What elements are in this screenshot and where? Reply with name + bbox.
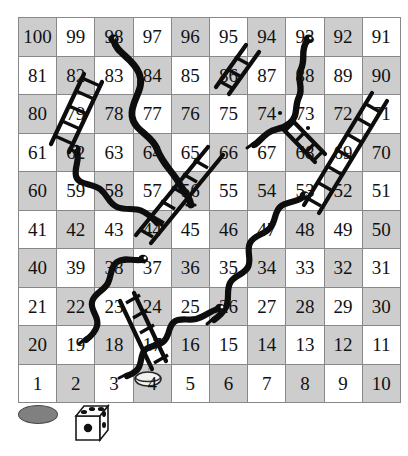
board-cell-100[interactable]: 100 xyxy=(19,18,57,57)
board-cell-97[interactable]: 97 xyxy=(133,18,171,57)
board-cell-52[interactable]: 52 xyxy=(324,172,362,211)
board-cell-87[interactable]: 87 xyxy=(248,56,286,95)
board-cell-39[interactable]: 39 xyxy=(57,249,95,288)
die[interactable] xyxy=(64,400,110,446)
cell-number: 21 xyxy=(28,296,47,317)
board-cell-61[interactable]: 61 xyxy=(19,133,57,172)
board-cell-54[interactable]: 54 xyxy=(248,172,286,211)
board-cell-51[interactable]: 51 xyxy=(362,172,400,211)
board-grid[interactable]: 1009998979695949392918182838485868788899… xyxy=(18,17,401,403)
board-cell-13[interactable]: 13 xyxy=(286,326,324,365)
board-cell-15[interactable]: 15 xyxy=(209,326,247,365)
board-cell-75[interactable]: 75 xyxy=(209,95,247,134)
board-cell-96[interactable]: 96 xyxy=(171,18,209,57)
game-board[interactable]: 1009998979695949392918182838485868788899… xyxy=(18,17,390,392)
board-cell-25[interactable]: 25 xyxy=(171,287,209,326)
board-cell-89[interactable]: 89 xyxy=(324,56,362,95)
board-cell-29[interactable]: 29 xyxy=(324,287,362,326)
board-cell-77[interactable]: 77 xyxy=(133,95,171,134)
board-cell-88[interactable]: 88 xyxy=(286,56,324,95)
board-cell-14[interactable]: 14 xyxy=(248,326,286,365)
board-cell-67[interactable]: 67 xyxy=(248,133,286,172)
board-cell-34[interactable]: 34 xyxy=(248,249,286,288)
board-cell-47[interactable]: 47 xyxy=(248,210,286,249)
board-cell-70[interactable]: 70 xyxy=(362,133,400,172)
board-cell-12[interactable]: 12 xyxy=(324,326,362,365)
board-cell-65[interactable]: 65 xyxy=(171,133,209,172)
board-cell-80[interactable]: 80 xyxy=(19,95,57,134)
board-cell-16[interactable]: 16 xyxy=(171,326,209,365)
board-cell-21[interactable]: 21 xyxy=(19,287,57,326)
board-cell-24[interactable]: 24 xyxy=(133,287,171,326)
board-cell-66[interactable]: 66 xyxy=(209,133,247,172)
board-cell-56[interactable]: 56 xyxy=(171,172,209,211)
board-cell-83[interactable]: 83 xyxy=(95,56,133,95)
board-cell-38[interactable]: 38 xyxy=(95,249,133,288)
board-cell-69[interactable]: 69 xyxy=(324,133,362,172)
board-cell-86[interactable]: 86 xyxy=(209,56,247,95)
board-cell-95[interactable]: 95 xyxy=(209,18,247,57)
board-cell-37[interactable]: 37 xyxy=(133,249,171,288)
board-cell-27[interactable]: 27 xyxy=(248,287,286,326)
board-cell-11[interactable]: 11 xyxy=(362,326,400,365)
board-cell-99[interactable]: 99 xyxy=(57,18,95,57)
board-cell-59[interactable]: 59 xyxy=(57,172,95,211)
board-cell-58[interactable]: 58 xyxy=(95,172,133,211)
board-cell-93[interactable]: 93 xyxy=(286,18,324,57)
board-cell-35[interactable]: 35 xyxy=(209,249,247,288)
board-cell-85[interactable]: 85 xyxy=(171,56,209,95)
board-cell-73[interactable]: 73 xyxy=(286,95,324,134)
cell-number: 53 xyxy=(295,180,314,201)
board-cell-98[interactable]: 98 xyxy=(95,18,133,57)
board-cell-43[interactable]: 43 xyxy=(95,210,133,249)
board-cell-68[interactable]: 68 xyxy=(286,133,324,172)
board-cell-41[interactable]: 41 xyxy=(19,210,57,249)
board-cell-72[interactable]: 72 xyxy=(324,95,362,134)
board-cell-42[interactable]: 42 xyxy=(57,210,95,249)
board-cell-49[interactable]: 49 xyxy=(324,210,362,249)
board-cell-79[interactable]: 79 xyxy=(57,95,95,134)
board-cell-63[interactable]: 63 xyxy=(95,133,133,172)
board-cell-94[interactable]: 94 xyxy=(248,18,286,57)
board-cell-57[interactable]: 57 xyxy=(133,172,171,211)
board-cell-22[interactable]: 22 xyxy=(57,287,95,326)
board-cell-32[interactable]: 32 xyxy=(324,249,362,288)
board-cell-62[interactable]: 62 xyxy=(57,133,95,172)
board-cell-64[interactable]: 64 xyxy=(133,133,171,172)
board-cell-19[interactable]: 19 xyxy=(57,326,95,365)
board-cell-91[interactable]: 91 xyxy=(362,18,400,57)
board-cell-60[interactable]: 60 xyxy=(19,172,57,211)
board-cell-40[interactable]: 40 xyxy=(19,249,57,288)
board-cell-31[interactable]: 31 xyxy=(362,249,400,288)
board-cell-92[interactable]: 92 xyxy=(324,18,362,57)
board-cell-76[interactable]: 76 xyxy=(171,95,209,134)
board-cell-81[interactable]: 81 xyxy=(19,56,57,95)
board-cell-36[interactable]: 36 xyxy=(171,249,209,288)
board-cell-71[interactable]: 71 xyxy=(362,95,400,134)
board-cell-28[interactable]: 28 xyxy=(286,287,324,326)
board-cell-90[interactable]: 90 xyxy=(362,56,400,95)
board-cell-18[interactable]: 18 xyxy=(95,326,133,365)
board-cell-74[interactable]: 74 xyxy=(248,95,286,134)
board-cell-30[interactable]: 30 xyxy=(362,287,400,326)
board-cell-48[interactable]: 48 xyxy=(286,210,324,249)
board-cell-84[interactable]: 84 xyxy=(133,56,171,95)
board-cell-20[interactable]: 20 xyxy=(19,326,57,365)
board-cell-45[interactable]: 45 xyxy=(171,210,209,249)
board-cell-17[interactable]: 17 xyxy=(133,326,171,365)
board-cell-50[interactable]: 50 xyxy=(362,210,400,249)
board-row: 61626364656667686970 xyxy=(19,133,401,172)
board-cell-44[interactable]: 44 xyxy=(133,210,171,249)
token-off-board[interactable] xyxy=(18,405,58,424)
game-pieces-tray[interactable] xyxy=(0,395,408,456)
board-cell-23[interactable]: 23 xyxy=(95,287,133,326)
board-cell-33[interactable]: 33 xyxy=(286,249,324,288)
cell-number: 2 xyxy=(71,373,81,394)
cell-number: 50 xyxy=(372,219,391,240)
board-cell-78[interactable]: 78 xyxy=(95,95,133,134)
board-cell-46[interactable]: 46 xyxy=(209,210,247,249)
board-cell-53[interactable]: 53 xyxy=(286,172,324,211)
board-cell-82[interactable]: 82 xyxy=(57,56,95,95)
board-cell-26[interactable]: 26 xyxy=(209,287,247,326)
board-cell-55[interactable]: 55 xyxy=(209,172,247,211)
